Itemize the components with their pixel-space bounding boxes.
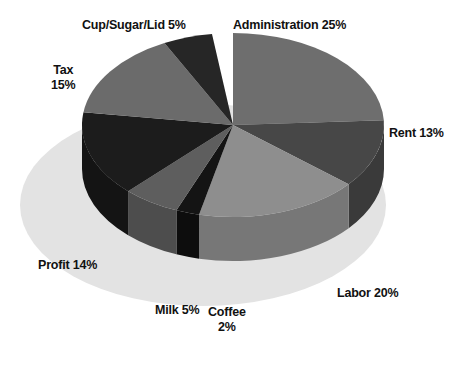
pie-label-rent: Rent 13% xyxy=(389,126,444,141)
pie-slice-administration xyxy=(233,33,384,125)
pie-side-coffee xyxy=(176,210,199,258)
pie-label-profit: Profit 14% xyxy=(38,258,97,273)
pie-label-labor: Labor 20% xyxy=(337,286,398,301)
pie-label-tax: Tax 15% xyxy=(51,63,75,93)
pie-label-administration: Administration 25% xyxy=(233,18,346,33)
pie-label-milk: Milk 5% xyxy=(155,303,199,318)
pie-label-cup-sugar-lid: Cup/Sugar/Lid 5% xyxy=(82,18,186,33)
pie-chart: Administration 25% Cup/Sugar/Lid 5% Tax … xyxy=(0,0,450,366)
pie-top-faces xyxy=(82,33,384,217)
pie-label-coffee: Coffee 2% xyxy=(208,305,246,335)
